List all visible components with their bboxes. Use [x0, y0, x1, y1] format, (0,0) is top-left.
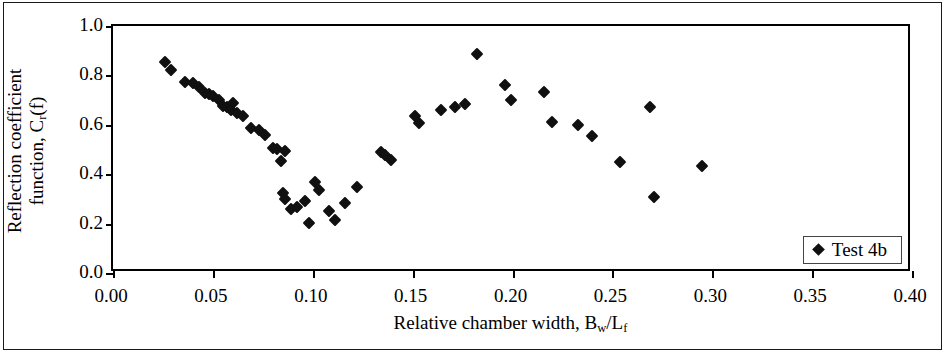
legend-item-label: Test 4b	[832, 240, 887, 259]
x-axis-title-prefix: Relative chamber width, B	[394, 312, 598, 333]
plot-area: Test 4b	[111, 24, 910, 271]
y-axis-title: Reflection coefficient function, Cr(f)	[4, 26, 50, 276]
scatter-point	[696, 160, 709, 173]
scatter-point	[470, 47, 483, 60]
y-axis-tick	[106, 75, 113, 77]
scatter-point	[644, 101, 657, 114]
chart-figure: Reflection coefficient function, Cr(f) 0…	[0, 0, 946, 354]
x-axis-title-sub-w: w	[597, 321, 606, 335]
x-tick-label: 0.05	[194, 286, 227, 305]
scatter-point	[572, 119, 585, 132]
y-tick-label: 0.0	[79, 262, 103, 281]
y-axis-title-line2: function, Cr(f)	[26, 26, 50, 276]
y-tick-label: 0.6	[79, 113, 103, 132]
legend-diamond-icon	[812, 243, 825, 256]
x-tick-label: 0.25	[594, 286, 627, 305]
scatter-point	[614, 156, 627, 169]
x-axis-tick	[912, 271, 914, 278]
scatter-point	[350, 180, 363, 193]
x-tick-labels: 0.000.050.100.150.200.250.300.350.40	[111, 286, 910, 310]
x-axis-title-mid: /L	[606, 312, 623, 333]
scatter-point	[538, 86, 551, 99]
x-axis-tick	[812, 271, 814, 278]
legend: Test 4b	[803, 236, 902, 264]
x-tick-label: 0.40	[893, 286, 926, 305]
y-tick-label: 0.2	[79, 212, 103, 231]
x-axis-title-sub-f: f	[623, 321, 627, 335]
x-axis-tick	[712, 271, 714, 278]
scatter-point	[586, 130, 599, 143]
y-tick-label: 0.4	[79, 163, 103, 182]
x-tick-label: 0.30	[694, 286, 727, 305]
x-axis-tick	[612, 271, 614, 278]
y-axis-title-line2-prefix: function, C	[26, 120, 47, 206]
x-tick-label: 0.15	[394, 286, 427, 305]
x-axis-tick	[413, 271, 415, 278]
scatter-points-layer	[113, 26, 908, 269]
x-axis-tick	[513, 271, 515, 278]
scatter-point	[498, 78, 511, 91]
scatter-point	[546, 115, 559, 128]
y-axis-tick	[106, 224, 113, 226]
scatter-point	[504, 93, 517, 106]
y-axis-tick	[106, 26, 113, 28]
x-axis-tick	[313, 271, 315, 278]
x-axis-title: Relative chamber width, Bw/Lf	[111, 312, 910, 336]
y-tick-labels: 0.00.20.40.60.81.0	[48, 24, 103, 271]
y-axis-title-line2-suffix: (f)	[26, 97, 47, 116]
x-tick-label: 0.20	[494, 286, 527, 305]
x-axis-tick	[113, 271, 115, 278]
y-axis-tick	[106, 273, 113, 275]
scatter-point	[458, 98, 471, 111]
y-tick-label: 0.8	[79, 64, 103, 83]
x-tick-label: 0.00	[94, 286, 127, 305]
scatter-point	[338, 196, 351, 209]
x-axis-tick	[213, 271, 215, 278]
x-tick-label: 0.35	[794, 286, 827, 305]
y-axis-title-line1: Reflection coefficient	[4, 69, 25, 234]
scatter-point	[302, 216, 315, 229]
y-axis-tick	[106, 174, 113, 176]
scatter-point	[434, 104, 447, 117]
y-axis-tick	[106, 125, 113, 127]
y-tick-label: 1.0	[79, 15, 103, 34]
x-tick-label: 0.10	[294, 286, 327, 305]
scatter-point	[648, 191, 661, 204]
